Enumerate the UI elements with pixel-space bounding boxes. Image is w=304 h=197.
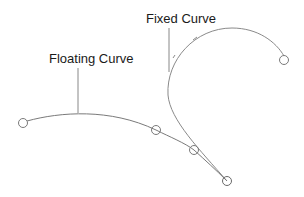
fixed-curve-tick xyxy=(173,55,175,58)
floating-curve-handle-start[interactable] xyxy=(19,119,28,128)
fixed-curve-handle-end[interactable] xyxy=(280,56,289,65)
fixed-curve xyxy=(168,28,284,181)
diagram-canvas xyxy=(0,0,304,197)
floating-curve-label: Floating Curve xyxy=(49,52,134,65)
fixed-curve-label: Fixed Curve xyxy=(146,12,216,25)
